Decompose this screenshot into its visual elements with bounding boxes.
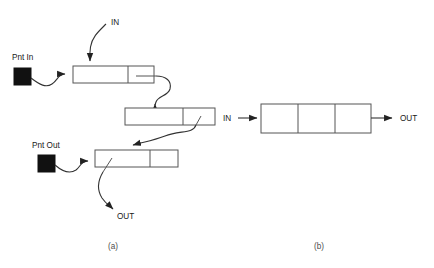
panel-a-out-label: OUT <box>117 212 134 221</box>
pnt-out-label: Pnt Out <box>32 141 60 150</box>
panel-a-in-label: IN <box>111 18 119 27</box>
panel-b-out-label: OUT <box>400 114 417 123</box>
panel-b-in-label: IN <box>223 114 231 123</box>
pnt-in-label: Pnt In <box>12 53 34 62</box>
figure-canvas: IN Pnt In Pnt Out OUT <box>0 0 434 268</box>
pnt-out-connector <box>55 161 88 172</box>
pnt-in-square <box>14 68 31 85</box>
pnt-in-connector <box>31 74 65 86</box>
caption-a: (a) <box>108 242 118 251</box>
node3-to-out-connector <box>98 172 113 209</box>
pnt-out-square <box>38 155 55 172</box>
node2-to-node3-connector <box>133 125 196 145</box>
node1-to-node2-connector <box>155 76 170 105</box>
node-1 <box>73 66 154 83</box>
panel-b-block <box>261 104 371 133</box>
caption-b: (b) <box>314 242 324 251</box>
node-2 <box>125 108 215 125</box>
in-to-node1-connector <box>90 24 106 61</box>
